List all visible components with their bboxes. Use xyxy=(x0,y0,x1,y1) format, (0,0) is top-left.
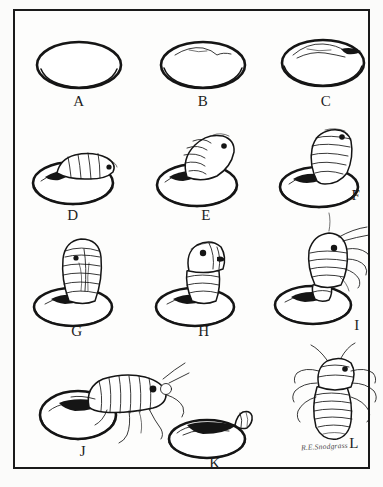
illustration-plate: A B C xyxy=(0,0,383,487)
figure-caption-D: D xyxy=(62,207,84,224)
figure-caption-K: K xyxy=(204,455,226,472)
nymph-head-free-drawing xyxy=(151,233,259,329)
pronymph-emerging-mid-drawing xyxy=(153,127,259,211)
figure-G xyxy=(29,233,133,329)
figure-caption-G: G xyxy=(66,323,88,340)
figure-caption-F: F xyxy=(345,187,367,204)
figure-C xyxy=(277,31,373,95)
figure-F xyxy=(277,123,383,213)
plate-border: A B C xyxy=(13,9,370,469)
figure-caption-E: E xyxy=(195,207,217,224)
free-nymph-dorsal-drawing xyxy=(283,347,383,447)
figure-H xyxy=(151,233,259,329)
figure-caption-I: I xyxy=(346,317,368,334)
figure-caption-J: J xyxy=(72,443,94,460)
figure-L xyxy=(283,347,383,447)
pronymph-cuticle-splitting-drawing xyxy=(29,233,133,329)
egg-cap-opening-drawing xyxy=(277,31,373,95)
figure-caption-H: H xyxy=(193,323,215,340)
figure-I xyxy=(271,225,383,329)
figure-caption-B: B xyxy=(192,93,214,110)
figure-caption-C: C xyxy=(315,93,337,110)
figure-B xyxy=(155,35,251,95)
pronymph-upright-drawing xyxy=(277,123,383,213)
egg-splitting-drawing xyxy=(155,35,251,95)
nymph-legs-free-drawing xyxy=(271,225,383,329)
figure-caption-A: A xyxy=(68,93,90,110)
figure-D xyxy=(27,139,133,209)
egg-intact-drawing xyxy=(31,35,127,95)
figure-E xyxy=(153,127,259,211)
figure-A xyxy=(31,35,127,95)
pronymph-emerging-low-drawing xyxy=(27,139,133,209)
artist-signature: R.E.Snodgrass xyxy=(301,441,348,452)
